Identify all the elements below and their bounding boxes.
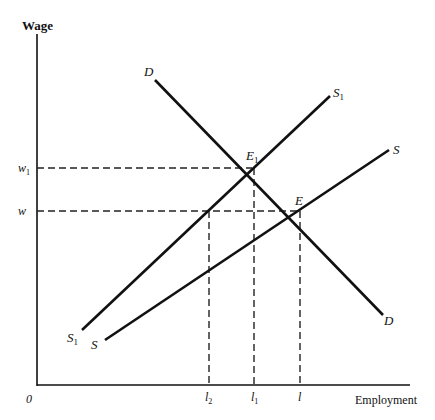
label-l2: l2 — [205, 390, 212, 406]
demand-curve-D — [155, 80, 383, 315]
y-axis-label: Wage — [22, 18, 53, 33]
label-w1: w1 — [18, 161, 30, 177]
origin-label: 0 — [26, 392, 32, 406]
label-l1: l1 — [251, 390, 258, 406]
label-l: l — [298, 390, 302, 404]
label-s-top: S — [393, 142, 400, 157]
label-w: w — [18, 204, 26, 218]
label-e1: E1 — [245, 148, 258, 165]
labor-market-diagram: Wage Employment 0 D D S1 S1 S S E1 E w1 … — [0, 0, 435, 420]
label-d-top: D — [143, 64, 154, 79]
label-s1-bottom: S1 — [67, 330, 78, 347]
label-s-bottom: S — [91, 337, 98, 352]
label-s1-top: S1 — [333, 85, 344, 102]
supply-curve-S — [105, 150, 389, 340]
guide-lines — [37, 168, 300, 385]
x-axis-label: Employment — [355, 393, 418, 407]
label-d-bottom: D — [383, 313, 394, 328]
label-e: E — [294, 193, 303, 208]
